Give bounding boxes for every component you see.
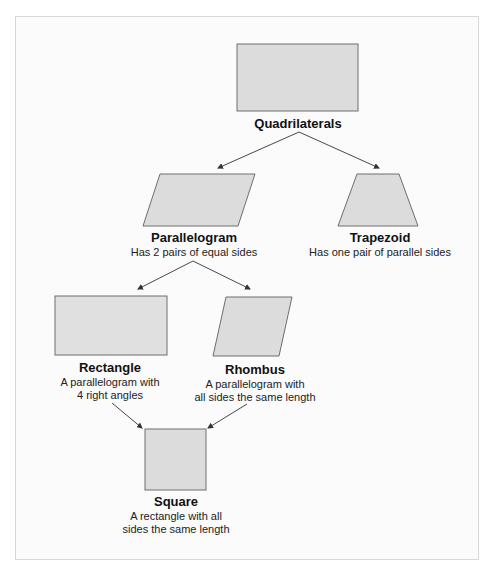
trapezoid-shape [338, 174, 418, 226]
arrow-parallelogram-to-rhombus [193, 261, 250, 289]
quadrilaterals-label: Quadrilaterals [254, 116, 341, 132]
rhombus-shape [213, 297, 292, 356]
arrow-quadrilaterals-to-trapezoid [299, 132, 379, 168]
square-shape [145, 429, 206, 490]
diagram-canvas [0, 0, 493, 577]
square-description-line-2: sides the same length [122, 523, 229, 536]
square-label: Square A rectangle with all sides the sa… [122, 494, 229, 536]
parallelogram-title: Parallelogram [131, 230, 258, 246]
rectangle-description-line-2: 4 right angles [60, 389, 159, 402]
trapezoid-description: Has one pair of parallel sides [309, 246, 451, 259]
arrow-quadrilaterals-to-parallelogram [218, 132, 299, 168]
rhombus-label: Rhombus A parallelogram with all sides t… [194, 362, 315, 404]
trapezoid-title: Trapezoid [309, 230, 451, 246]
rectangle-shape [55, 296, 167, 355]
rectangle-description-line-1: A parallelogram with [60, 376, 159, 389]
trapezoid-label: Trapezoid Has one pair of parallel sides [309, 230, 451, 259]
parallelogram-shape [143, 174, 255, 226]
parallelogram-label: Parallelogram Has 2 pairs of equal sides [131, 230, 258, 259]
parallelogram-description: Has 2 pairs of equal sides [131, 246, 258, 259]
square-description-line-1: A rectangle with all [122, 510, 229, 523]
rhombus-description-line-2: all sides the same length [194, 391, 315, 404]
rectangle-title: Rectangle [60, 360, 159, 376]
arrow-rectangle-to-square [112, 403, 142, 428]
quadrilaterals-title: Quadrilaterals [254, 116, 341, 132]
quadrilaterals-shape [237, 44, 358, 111]
rhombus-title: Rhombus [194, 362, 315, 378]
arrow-rhombus-to-square [208, 404, 247, 428]
square-title: Square [122, 494, 229, 510]
rhombus-description-line-1: A parallelogram with [194, 378, 315, 391]
arrow-parallelogram-to-rectangle [138, 261, 193, 289]
rectangle-label: Rectangle A parallelogram with 4 right a… [60, 360, 159, 402]
